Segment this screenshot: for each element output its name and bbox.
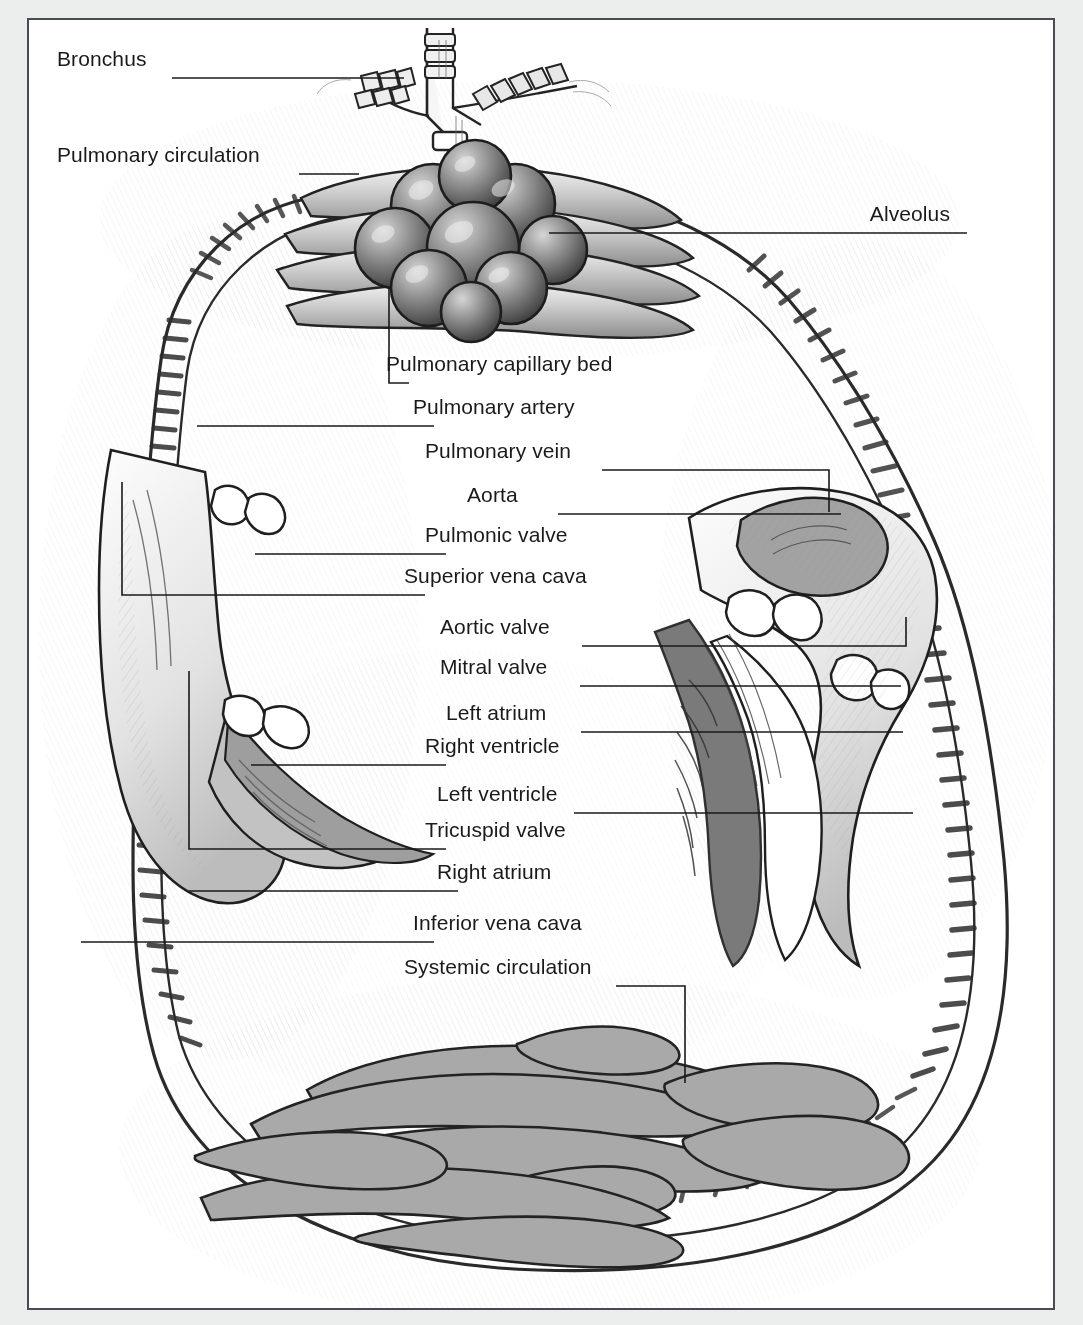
label-inferior-vena-cava: Inferior vena cava xyxy=(413,912,582,933)
label-tricuspid-valve: Tricuspid valve xyxy=(425,819,566,840)
label-bronchus: Bronchus xyxy=(57,48,147,69)
label-pulmonary-circulation: Pulmonary circulation xyxy=(57,144,260,165)
label-right-ventricle: Right ventricle xyxy=(425,735,560,756)
label-alveolus: Alveolus xyxy=(870,203,950,224)
label-pulmonic-valve: Pulmonic valve xyxy=(425,524,568,545)
label-left-ventricle: Left ventricle xyxy=(437,783,557,804)
label-aortic-valve: Aortic valve xyxy=(440,616,550,637)
label-right-atrium: Right atrium xyxy=(437,861,551,882)
label-pulmonary-capillary-bed: Pulmonary capillary bed xyxy=(386,353,612,374)
label-systemic-circulation: Systemic circulation xyxy=(404,956,592,977)
label-mitral-valve: Mitral valve xyxy=(440,656,547,677)
label-left-atrium: Left atrium xyxy=(446,702,546,723)
label-pulmonary-vein: Pulmonary vein xyxy=(425,440,571,461)
label-aorta: Aorta xyxy=(467,484,518,505)
label-superior-vena-cava: Superior vena cava xyxy=(404,565,587,586)
label-pulmonary-artery: Pulmonary artery xyxy=(413,396,575,417)
